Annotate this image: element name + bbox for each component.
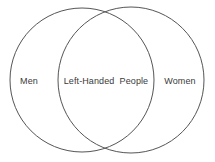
venn-label-men: Men (20, 77, 38, 86)
venn-label-left-handed-people: Left-Handed People (64, 77, 148, 86)
venn-label-women: Women (164, 77, 195, 86)
venn-diagram: Men Left-Handed People Women (0, 0, 215, 162)
